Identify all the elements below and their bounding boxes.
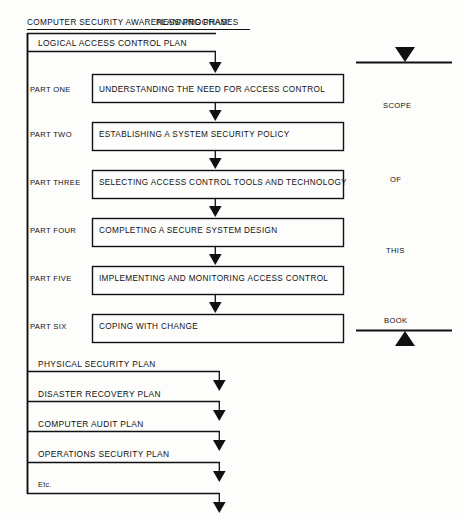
scope-word-scope: SCOPE xyxy=(383,101,411,110)
part-box-title-four: COMPLETING A SECURE SYSTEM DESIGN xyxy=(99,226,278,235)
part-label-two: PART TWO xyxy=(30,130,72,139)
diagram-canvas: COMPUTER SECURITY AWARENESS PROGRAM: PLA… xyxy=(0,0,464,518)
part-box-title-three: SELECTING ACCESS CONTROL TOOLS AND TECHN… xyxy=(99,178,347,187)
scope-word-this: THIS xyxy=(386,246,405,255)
other-plan-label-physical-security: PHYSICAL SECURITY PLAN xyxy=(38,359,156,369)
logical-access-control-plan-label: LOGICAL ACCESS CONTROL PLAN xyxy=(38,38,187,48)
arrow-head-icon-etc xyxy=(213,502,226,513)
arrow-head-icon-into-part-four xyxy=(209,206,222,217)
part-box-title-one: UNDERSTANDING THE NEED FOR ACCESS CONTRO… xyxy=(99,85,325,94)
arrow-head-icon-computer-audit xyxy=(213,440,226,451)
arrow-head-icon-operations-security xyxy=(213,471,226,482)
part-box-title-five: IMPLEMENTING AND MONITORING ACCESS CONTR… xyxy=(99,274,328,283)
arrow-head-icon-into-part-five xyxy=(209,254,222,265)
scope-word-book: BOOK xyxy=(384,316,407,325)
scope-bracket-bottom-arrow-icon xyxy=(395,331,415,346)
arrow-head-icon-disaster-recovery xyxy=(213,410,226,421)
part-box-title-six: COPING WITH CHANGE xyxy=(99,322,198,331)
part-label-five: PART FIVE xyxy=(30,274,72,283)
part-label-one: PART ONE xyxy=(30,85,71,94)
part-label-three: PART THREE xyxy=(30,178,81,187)
arrow-head-icon-into-part-two xyxy=(209,110,222,121)
part-box-title-two: ESTABLISHING A SYSTEM SECURITY POLICY xyxy=(99,130,290,139)
scope-word-of: OF xyxy=(390,175,401,184)
diagram-lines-layer xyxy=(0,0,464,518)
other-plan-label-operations-security: OPERATIONS SECURITY PLAN xyxy=(38,449,169,459)
other-plan-label-computer-audit: COMPUTER AUDIT PLAN xyxy=(38,419,144,429)
other-plan-label-etc: Etc. xyxy=(38,480,52,489)
arrow-head-icon-into-part-one xyxy=(209,62,222,73)
arrow-head-icon-physical-security xyxy=(213,380,226,391)
arrow-head-icon-into-part-six xyxy=(209,302,222,313)
scope-bracket-top-arrow-icon xyxy=(395,47,415,62)
part-label-six: PART SIX xyxy=(30,322,67,331)
other-plan-label-disaster-recovery: DISASTER RECOVERY PLAN xyxy=(38,389,161,399)
part-label-four: PART FOUR xyxy=(30,226,76,235)
arrow-head-icon-into-part-three xyxy=(209,158,222,169)
diagram-title-sub: PLANNING PHASES xyxy=(156,18,239,27)
